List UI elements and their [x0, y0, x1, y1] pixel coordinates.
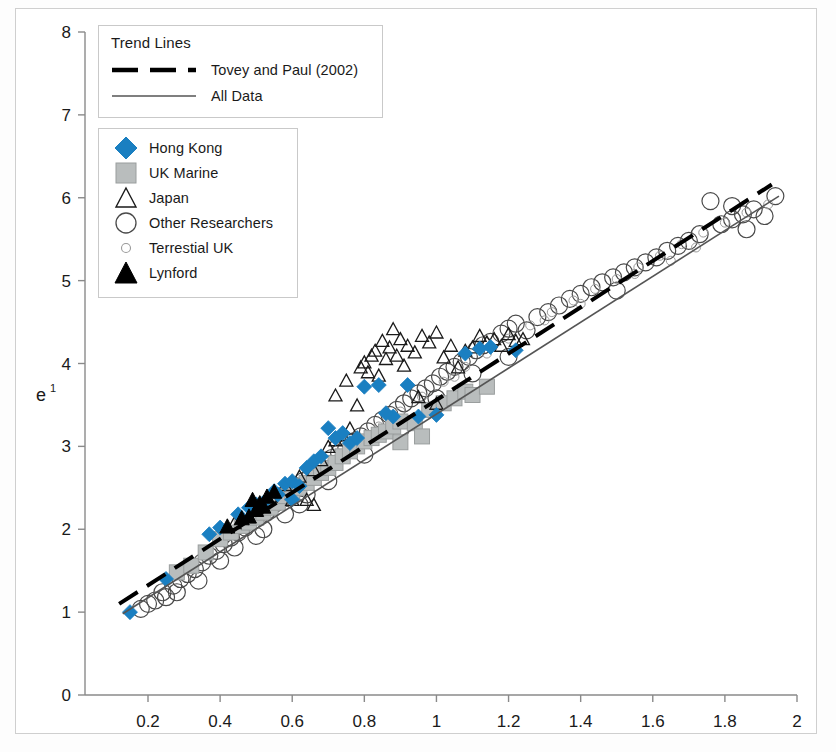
trend-legend-title: Trend Lines	[111, 34, 372, 51]
black-triangle-icon	[109, 262, 143, 284]
open-triangle-icon	[111, 186, 141, 210]
data-point	[351, 399, 364, 411]
trend-legend-rows: Tovey and Paul (2002)All Data	[109, 57, 372, 109]
data-point	[158, 589, 175, 606]
y-tick-label: 1	[62, 603, 71, 622]
gray-square-icon	[111, 161, 141, 185]
series-legend-item: Terrestial UK	[109, 235, 289, 260]
trend-legend-label: Tovey and Paul (2002)	[211, 62, 358, 78]
gray-square-icon	[109, 162, 143, 184]
data-point	[415, 429, 430, 444]
series-legend-item: Other Researchers	[109, 210, 289, 235]
x-tick-label: 1.2	[497, 712, 521, 731]
x-tick-label: 0.4	[208, 712, 232, 731]
series-legend-item: UK Marine	[109, 160, 289, 185]
solid-line-icon	[110, 89, 198, 103]
data-point	[357, 379, 372, 394]
data-point	[529, 309, 546, 326]
x-tick-label: 1	[432, 712, 441, 731]
blue-diamond-icon	[109, 137, 143, 159]
y-tick-label: 4	[62, 355, 71, 374]
data-point	[738, 221, 755, 238]
trend-legend-item: All Data	[109, 83, 372, 109]
y-tick-label: 2	[62, 520, 71, 539]
solid-line-icon	[109, 85, 199, 107]
small-open-circle-icon	[109, 237, 143, 259]
trend-lines-legend: Trend Lines Tovey and Paul (2002)All Dat…	[98, 25, 383, 118]
black-triangle-icon	[111, 261, 141, 285]
series-legend-label: Other Researchers	[149, 215, 273, 231]
x-tick-label: 1.4	[569, 712, 593, 731]
dashed-line-icon	[110, 63, 198, 77]
data-point	[437, 351, 450, 363]
data-point	[702, 193, 719, 210]
series-legend: Hong KongUK MarineJapanOther Researchers…	[98, 128, 298, 298]
series-legend-item: Hong Kong	[109, 135, 289, 160]
trend-legend-item: Tovey and Paul (2002)	[109, 57, 372, 83]
open-circle-icon	[111, 211, 141, 235]
series-legend-rows: Hong KongUK MarineJapanOther Researchers…	[109, 135, 289, 285]
data-point	[387, 323, 400, 335]
data-point	[430, 326, 443, 338]
y-axis-title: e	[36, 385, 46, 405]
x-tick-label: 0.8	[353, 712, 377, 731]
data-point	[226, 539, 243, 556]
series-legend-label: Terrestial UK	[149, 240, 233, 256]
open-circle-icon	[109, 212, 143, 234]
y-tick-label: 3	[62, 437, 71, 456]
open-triangle-icon	[109, 187, 143, 209]
dashed-line-icon	[109, 59, 199, 81]
series-legend-label: Lynford	[149, 265, 198, 281]
data-point	[329, 389, 342, 401]
small-open-circle-icon	[111, 236, 141, 260]
blue-diamond-icon	[111, 136, 141, 160]
series-legend-label: Japan	[149, 190, 189, 206]
y-tick-label: 6	[62, 189, 71, 208]
y-tick-label: 5	[62, 272, 71, 291]
y-axis-title-superscript: 1	[50, 382, 56, 394]
data-point	[444, 339, 457, 351]
series-legend-item: Lynford	[109, 260, 289, 285]
x-tick-label: 1.8	[713, 712, 737, 731]
x-tick-label: 0.2	[136, 712, 160, 731]
y-tick-label: 8	[62, 23, 71, 42]
x-tick-label: 0.6	[280, 712, 304, 731]
series-legend-label: UK Marine	[149, 165, 218, 181]
data-point	[340, 374, 353, 386]
y-tick-label: 0	[62, 686, 71, 705]
trend-legend-label: All Data	[211, 88, 263, 104]
data-point	[379, 353, 392, 365]
x-tick-label: 2	[792, 712, 801, 731]
x-tick-label: 1.6	[641, 712, 665, 731]
series-legend-label: Hong Kong	[149, 140, 222, 156]
y-tick-label: 7	[62, 106, 71, 125]
figure-page: 0123456780.20.40.60.811.21.41.61.82e1 Tr…	[0, 0, 836, 752]
series-legend-item: Japan	[109, 185, 289, 210]
